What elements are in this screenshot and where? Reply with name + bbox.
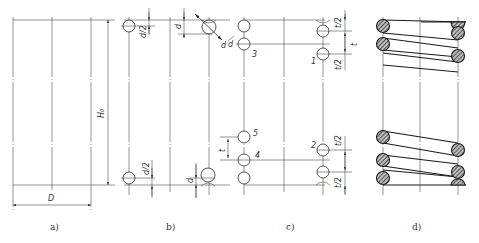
circle-number-3: 3: [252, 50, 257, 59]
wire-section-hatched: [377, 20, 390, 33]
half-pitch-label-4: t/2: [334, 177, 343, 188]
pitch-label-top: t: [350, 42, 359, 46]
panel-d: d): [377, 17, 467, 232]
wire-label-c: d: [228, 40, 234, 49]
circle-number-5: 5: [253, 129, 258, 138]
pitch-label-left: t: [218, 148, 227, 152]
panel-b-label: b): [166, 222, 175, 232]
half-pitch-label-1: t/2: [334, 17, 343, 28]
half-wire-label-top: d/2: [139, 25, 148, 38]
panel-a: H₀ D a): [13, 17, 115, 232]
wire-diameter-label: d: [221, 41, 227, 50]
wire-label-top: d: [174, 23, 183, 29]
circle-number-2: 2: [311, 141, 316, 150]
panel-d-label: d): [412, 222, 421, 232]
wire-diameter-leader: [195, 14, 222, 40]
diameter-label: D: [48, 194, 54, 203]
panel-b: d/2 d d d/2 d b): [121, 8, 230, 232]
spring-drawing-figure: H₀ D a) d/2 d d d/2: [0, 0, 479, 243]
circle-number-1: 1: [311, 57, 316, 66]
panel-a-label: a): [50, 222, 59, 232]
half-pitch-label-3: t/2: [334, 135, 343, 146]
circle-number-4: 4: [255, 151, 260, 160]
panel-c-label: c): [286, 222, 295, 232]
half-pitch-label-2: t/2: [334, 59, 343, 70]
half-wire-label-bottom: d/2: [142, 162, 151, 175]
free-height-label: H₀: [97, 108, 106, 118]
panel-c: d 3 5 4 t 1 t/2 t t/2 2 t/2 t/2: [218, 10, 359, 232]
